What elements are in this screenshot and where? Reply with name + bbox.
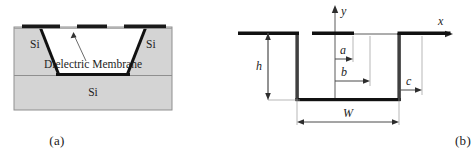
dim-label-c: c [406, 74, 412, 88]
conductor-center-flange [312, 32, 354, 36]
dim-label-a: a [340, 43, 346, 57]
dim-arrow-a [346, 56, 353, 62]
metal-strip-left [22, 25, 60, 29]
dim-arrow-h-bottom [265, 93, 271, 100]
y-axis-arrowhead [332, 5, 338, 13]
conductor-right-flange [398, 32, 451, 36]
dim-label-h: h [256, 59, 262, 73]
label-si-left: Si [30, 38, 40, 50]
label-dielectric-membrane: Dielectric Membrane [44, 58, 142, 70]
label-si-bottom: Si [88, 86, 98, 98]
x-axis-label: x [437, 14, 444, 28]
panel-b-caption: (b) [348, 133, 475, 149]
metal-strip-right [124, 25, 166, 29]
label-si-right: Si [146, 38, 156, 50]
dim-arrow-w-left [297, 119, 304, 125]
dim-label-b: b [341, 65, 347, 79]
panel-a: Si Si Dielectric Membrane Si (a) [0, 0, 230, 163]
conductor-bottom-wall [296, 98, 401, 101]
panel-a-caption: (a) [0, 133, 172, 149]
dim-label-w: W [343, 106, 354, 120]
y-axis-label: y [340, 4, 347, 18]
dim-arrow-w-right [392, 119, 399, 125]
panel-b: y x [230, 0, 460, 163]
metal-strip-center [77, 25, 107, 29]
dim-arrow-c [415, 87, 422, 93]
dim-arrow-b [363, 78, 370, 84]
